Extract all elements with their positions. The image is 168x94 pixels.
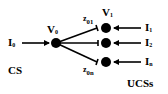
label-z0n: z0n <box>83 66 94 76</box>
label-i1: I1 <box>145 22 152 33</box>
label-v0: V0 <box>47 24 58 35</box>
node-v2 <box>101 38 111 48</box>
group-label-cs: CS <box>8 65 22 76</box>
label-in: In <box>145 56 153 67</box>
edge-tick <box>96 25 98 31</box>
edge-z0n <box>56 43 97 62</box>
edge-z01 <box>56 28 97 43</box>
label-z01: z01 <box>83 15 93 25</box>
label-i0: I0 <box>8 37 15 48</box>
group-label-ucss: UCSs <box>127 78 153 89</box>
label-v1: V1 <box>102 7 113 18</box>
label-i2: I2 <box>145 37 152 48</box>
edge-tick <box>96 59 98 65</box>
node-vn <box>101 57 111 67</box>
node-v1 <box>101 23 111 33</box>
